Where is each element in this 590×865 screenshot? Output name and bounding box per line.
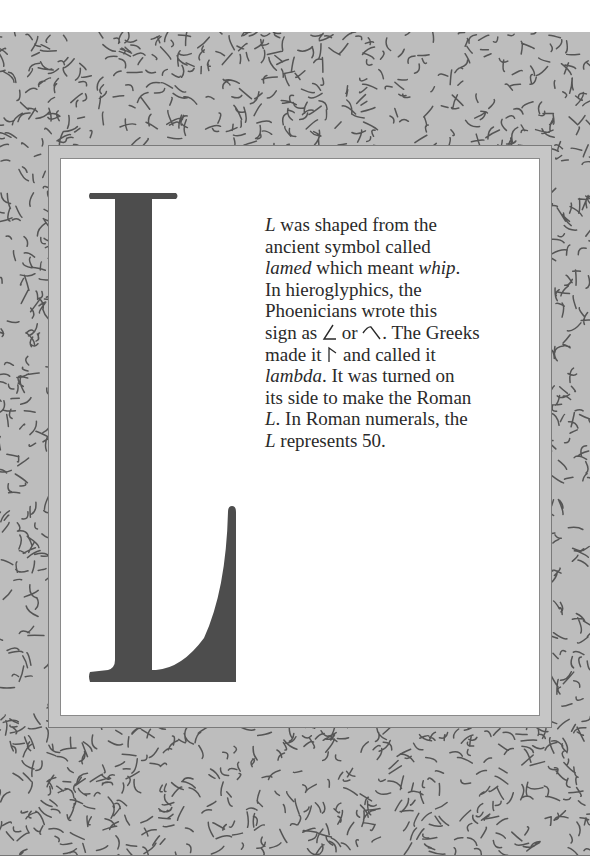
paragraph-line: Phoenicians wrote this [265, 300, 540, 322]
paragraph-line: ancient symbol called [265, 236, 540, 258]
paragraph-line: In hieroglyphics, the [265, 279, 540, 301]
paragraph-line: lambda. It was turned on [265, 365, 540, 387]
paragraph-line: L represents 50. [265, 430, 540, 452]
paragraph-line: L was shaped from the [265, 214, 540, 236]
paragraph-line: lamed which meant whip. [265, 257, 540, 279]
paragraph-line: its side to make the Roman [265, 387, 540, 409]
angle-glyph-icon [322, 322, 337, 343]
hook-glyph-icon [362, 322, 382, 343]
description-paragraph: L was shaped from theancient symbol call… [265, 214, 540, 452]
gamma-glyph-icon [326, 344, 338, 365]
paragraph-line: made it and called it [265, 344, 540, 366]
paragraph-line: L. In Roman numerals, the [265, 408, 540, 430]
paragraph-line: sign as or . The Greeks [265, 322, 540, 344]
drop-cap-letter-l [86, 190, 246, 690]
